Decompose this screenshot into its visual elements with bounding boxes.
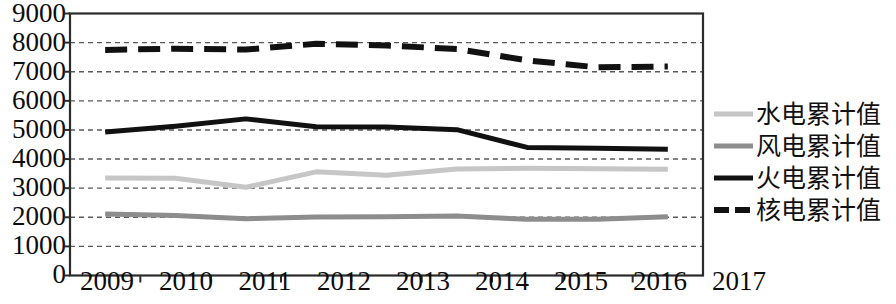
- legend-swatch-hydro-icon: [712, 98, 754, 130]
- legend-swatch-wind-icon: [712, 130, 754, 162]
- legend-label-hydro: 水电累计值: [754, 102, 881, 127]
- chart-legend: 水电累计值 风电累计值 火电累计值 核电累计值: [712, 98, 896, 226]
- legend-swatch-thermal-icon: [712, 162, 754, 194]
- plot-frame: [70, 14, 703, 276]
- legend-label-wind: 风电累计值: [754, 134, 881, 159]
- legend-item-hydro[interactable]: 水电累计值: [712, 98, 896, 130]
- line-chart: 9000 8000 7000 6000 5000 4000 3000 2000 …: [0, 0, 896, 304]
- legend-item-wind[interactable]: 风电累计值: [712, 130, 896, 162]
- legend-item-nuclear[interactable]: 核电累计值: [712, 194, 896, 226]
- legend-item-thermal[interactable]: 火电累计值: [712, 162, 896, 194]
- series-line-thermal: [105, 119, 668, 149]
- legend-label-thermal: 火电累计值: [754, 166, 881, 191]
- legend-label-nuclear: 核电累计值: [754, 198, 881, 223]
- legend-swatch-nuclear-icon: [712, 194, 754, 226]
- x-axis-tick-2017: 2017: [669, 268, 809, 295]
- series-line-hydro: [105, 168, 668, 187]
- series-line-nuclear: [105, 44, 668, 68]
